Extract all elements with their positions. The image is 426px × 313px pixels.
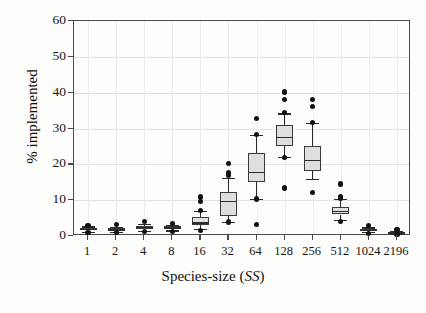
x-tick-label: 256 <box>302 245 321 258</box>
boxplot-figure: % implemented 0102030405060 124816326412… <box>0 0 426 313</box>
x-tick-label: 8 <box>168 245 174 258</box>
x-tick-label: 1024 <box>355 245 380 258</box>
x-tick-mark <box>199 235 200 240</box>
x-axis-title-close: ) <box>259 268 264 284</box>
y-tick-label: 30 <box>38 121 66 135</box>
x-tick-label: 512 <box>330 245 349 258</box>
y-tick-label: 50 <box>38 49 66 63</box>
y-tick-label: 10 <box>38 192 66 206</box>
x-axis-title-italic: SS <box>244 268 259 284</box>
x-tick-mark <box>284 235 285 240</box>
x-tick-mark <box>143 235 144 240</box>
x-tick-label: 128 <box>274 245 293 258</box>
x-axis-title: Species-size (SS) <box>0 268 426 285</box>
x-tick-label: 16 <box>193 245 206 258</box>
x-tick-mark <box>256 235 257 240</box>
y-tick-label: 60 <box>38 13 66 27</box>
x-tick-label: 32 <box>221 245 234 258</box>
x-tick-mark <box>368 235 369 240</box>
x-tick-label: 2196 <box>383 245 408 258</box>
x-tick-label: 1 <box>84 245 90 258</box>
x-tick-label: 4 <box>140 245 146 258</box>
outlier-point <box>394 227 399 232</box>
plot-area <box>73 20 410 235</box>
y-tick-label: 20 <box>38 156 66 170</box>
x-tick-mark <box>115 235 116 240</box>
x-tick-mark <box>227 235 228 240</box>
x-tick-mark <box>340 235 341 240</box>
y-tick-label: 40 <box>38 85 66 99</box>
x-tick-mark <box>171 235 172 240</box>
x-tick-mark <box>87 235 88 240</box>
x-tick-mark <box>312 235 313 240</box>
x-tick-label: 64 <box>249 245 262 258</box>
y-tick-mark <box>68 235 73 236</box>
x-tick-mark <box>396 235 397 240</box>
boxplot-group <box>74 21 409 234</box>
x-tick-label: 2 <box>112 245 118 258</box>
y-tick-label: 0 <box>38 228 66 242</box>
x-axis-title-text: Species-size ( <box>162 268 245 284</box>
